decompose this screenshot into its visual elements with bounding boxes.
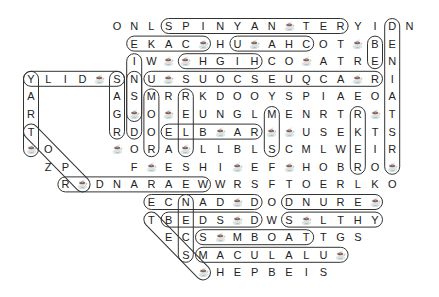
grid-letter[interactable]: D [213, 89, 227, 103]
cup-icon[interactable]: ☕ [179, 142, 193, 156]
grid-letter[interactable]: E [162, 125, 176, 139]
cup-icon[interactable]: ☕ [144, 160, 158, 174]
cup-icon[interactable]: ☕ [265, 125, 279, 139]
grid-letter[interactable]: R [351, 160, 365, 174]
grid-letter[interactable]: R [110, 125, 124, 139]
grid-letter[interactable]: L [179, 125, 193, 139]
grid-letter[interactable]: O [144, 125, 158, 139]
grid-letter[interactable]: S [316, 125, 330, 139]
grid-letter[interactable]: O [316, 37, 330, 51]
grid-letter[interactable]: M [230, 230, 244, 244]
grid-letter[interactable]: Q [299, 72, 313, 86]
grid-letter[interactable]: R [162, 89, 176, 103]
grid-letter[interactable]: A [127, 177, 141, 191]
grid-letter[interactable]: I [299, 265, 313, 279]
cup-icon[interactable]: ☕ [230, 195, 244, 209]
cup-icon[interactable]: ☕ [24, 142, 38, 156]
grid-letter[interactable]: F [265, 177, 279, 191]
cup-icon[interactable]: ☕ [230, 160, 244, 174]
grid-letter[interactable]: L [196, 142, 210, 156]
grid-letter[interactable]: M [299, 142, 313, 156]
grid-letter[interactable]: E [127, 37, 141, 51]
grid-letter[interactable]: H [282, 37, 296, 51]
grid-letter[interactable]: D [196, 213, 210, 227]
cup-icon[interactable]: ☕ [282, 19, 296, 33]
grid-letter[interactable]: R [368, 72, 382, 86]
cup-icon[interactable]: ☕ [213, 125, 227, 139]
grid-letter[interactable]: O [316, 160, 330, 174]
grid-letter[interactable]: S [282, 213, 296, 227]
grid-letter[interactable]: N [179, 195, 193, 209]
cup-icon[interactable]: ☕ [196, 37, 210, 51]
grid-letter[interactable]: E [179, 177, 193, 191]
grid-letter[interactable]: P [248, 265, 262, 279]
cup-icon[interactable]: ☕ [162, 72, 176, 86]
grid-letter[interactable]: R [385, 142, 399, 156]
grid-letter[interactable]: A [316, 54, 330, 68]
grid-letter[interactable]: O [368, 160, 382, 174]
grid-letter[interactable]: E [351, 142, 365, 156]
grid-letter[interactable]: E [351, 195, 365, 209]
grid-letter[interactable]: N [213, 19, 227, 33]
grid-letter[interactable]: A [196, 195, 210, 209]
grid-letter[interactable]: R [179, 89, 193, 103]
grid-letter[interactable]: A [334, 89, 348, 103]
cup-icon[interactable]: ☕ [213, 230, 227, 244]
cup-icon[interactable]: ☕ [196, 265, 210, 279]
grid-letter[interactable]: E [179, 213, 193, 227]
grid-letter[interactable]: A [162, 177, 176, 191]
cup-icon[interactable]: ☕ [230, 213, 244, 227]
grid-letter[interactable]: Z [41, 160, 55, 174]
grid-letter[interactable]: H [299, 160, 313, 174]
grid-letter[interactable]: L [265, 248, 279, 262]
grid-letter[interactable]: F [265, 160, 279, 174]
grid-letter[interactable]: A [385, 89, 399, 103]
grid-letter[interactable]: E [282, 107, 296, 121]
grid-letter[interactable]: O [41, 142, 55, 156]
grid-letter[interactable]: U [196, 72, 210, 86]
grid-letter[interactable]: P [299, 89, 313, 103]
grid-letter[interactable]: I [58, 72, 72, 86]
grid-letter[interactable]: H [351, 213, 365, 227]
grid-letter[interactable]: C [162, 195, 176, 209]
grid-letter[interactable]: L [316, 213, 330, 227]
cup-icon[interactable]: ☕ [110, 142, 124, 156]
grid-letter[interactable]: U [196, 107, 210, 121]
grid-letter[interactable]: O [368, 89, 382, 103]
grid-letter[interactable]: H [213, 265, 227, 279]
grid-letter[interactable]: S [213, 213, 227, 227]
grid-letter[interactable]: R [248, 125, 262, 139]
grid-letter[interactable]: W [334, 142, 348, 156]
grid-letter[interactable]: R [144, 177, 158, 191]
grid-letter[interactable]: R [316, 107, 330, 121]
cup-icon[interactable]: ☕ [162, 54, 176, 68]
grid-letter[interactable]: G [230, 107, 244, 121]
grid-letter[interactable]: U [282, 72, 296, 86]
grid-letter[interactable]: E [334, 125, 348, 139]
grid-letter[interactable]: S [179, 72, 193, 86]
grid-letter[interactable]: G [334, 230, 348, 244]
grid-letter[interactable]: K [368, 177, 382, 191]
grid-letter[interactable]: L [299, 248, 313, 262]
grid-letter[interactable]: T [24, 125, 38, 139]
grid-letter[interactable]: S [162, 19, 176, 33]
grid-letter[interactable]: E [230, 265, 244, 279]
cup-icon[interactable]: ☕ [351, 72, 365, 86]
grid-letter[interactable]: K [196, 89, 210, 103]
cup-icon[interactable]: ☕ [282, 125, 296, 139]
grid-letter[interactable]: O [248, 89, 262, 103]
grid-letter[interactable]: U [316, 195, 330, 209]
grid-letter[interactable]: U [144, 72, 158, 86]
grid-letter[interactable]: L [213, 142, 227, 156]
grid-letter[interactable]: D [282, 195, 296, 209]
grid-letter[interactable]: H [196, 54, 210, 68]
grid-letter[interactable]: N [402, 19, 416, 33]
grid-letter[interactable]: L [351, 177, 365, 191]
grid-letter[interactable]: A [248, 19, 262, 33]
grid-letter[interactable]: H [248, 54, 262, 68]
grid-letter[interactable]: D [127, 125, 141, 139]
grid-letter[interactable]: E [316, 177, 330, 191]
cup-icon[interactable]: ☕ [368, 195, 382, 209]
grid-letter[interactable]: A [282, 248, 296, 262]
grid-letter[interactable]: G [213, 54, 227, 68]
